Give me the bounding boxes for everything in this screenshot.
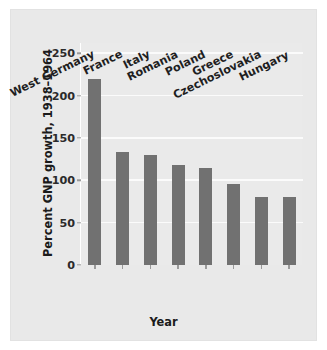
- bar: [172, 165, 185, 265]
- y-tick-label: 200: [52, 89, 75, 102]
- y-tick-mark: [77, 95, 81, 96]
- gridline: [81, 179, 303, 181]
- chart-panel: Percent GNP growth, 1938–1964 0501001502…: [11, 10, 316, 340]
- y-tick-mark: [77, 180, 81, 181]
- bar: [283, 197, 296, 265]
- chart-figure: Percent GNP growth, 1938–1964 0501001502…: [0, 0, 327, 350]
- gridline: [81, 222, 303, 224]
- bar: [227, 184, 240, 265]
- bar: [116, 152, 129, 265]
- y-tick-label: 150: [52, 131, 75, 144]
- y-tick-mark: [77, 264, 81, 265]
- y-tick-mark: [77, 137, 81, 138]
- x-tick-mark: [288, 265, 289, 269]
- y-tick-label: 0: [67, 259, 75, 272]
- x-tick-mark: [94, 265, 95, 269]
- gridline: [81, 95, 303, 97]
- y-tick-mark: [77, 222, 81, 223]
- x-tick-mark: [205, 265, 206, 269]
- x-tick-mark: [177, 265, 178, 269]
- x-tick-mark: [261, 265, 262, 269]
- x-tick-mark: [122, 265, 123, 269]
- y-tick-label: 50: [59, 216, 75, 229]
- bar: [255, 197, 268, 265]
- bar: [199, 168, 212, 265]
- gridline: [81, 137, 303, 139]
- y-tick-label: 100: [52, 174, 75, 187]
- x-tick-mark: [150, 265, 151, 269]
- x-tick-mark: [233, 265, 234, 269]
- x-axis-title: Year: [11, 315, 316, 329]
- bar: [88, 79, 101, 265]
- bar: [144, 155, 157, 265]
- y-axis-title: Percent GNP growth, 1938–1964: [41, 57, 55, 257]
- plot-area: 050100150200250West GermanyFranceItalyRo…: [80, 43, 302, 265]
